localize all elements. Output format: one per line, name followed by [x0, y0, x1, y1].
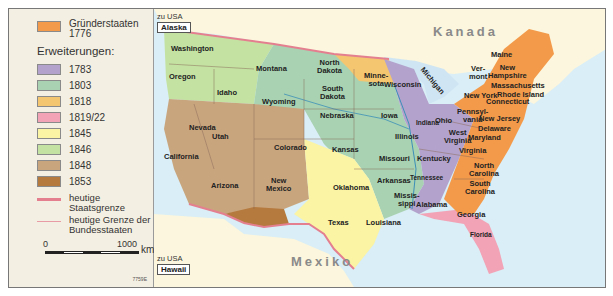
state-label: Maryland — [468, 134, 501, 142]
legend-label: Bundesstaaten — [69, 225, 150, 235]
legend-title: Erweiterungen: — [37, 45, 114, 57]
legend-label: 1783 — [69, 64, 91, 75]
state-label: Kentucky — [417, 155, 451, 163]
legend-swatch-1776 — [37, 21, 61, 32]
legend-swatch — [37, 80, 61, 91]
state-label: Arkansas — [377, 177, 411, 185]
legend-founding-states: Gründerstaaten 1776 — [37, 19, 139, 39]
state-label: Georgia — [457, 211, 485, 219]
legend-label: 1845 — [69, 128, 91, 139]
legend-label: Staatsgrenze — [69, 203, 125, 213]
state-label: Rhode Island — [497, 91, 544, 99]
legend-label: 1846 — [69, 144, 91, 155]
state-label: NewMexico — [266, 177, 291, 193]
legend-item: 1845 — [37, 128, 91, 139]
state-label: Ohio — [435, 117, 452, 125]
legend-swatch — [37, 112, 61, 123]
state-label: Alabama — [416, 201, 447, 209]
state-label: Washington — [171, 45, 214, 53]
state-label: Montana — [256, 65, 287, 73]
legend-swatch — [37, 144, 61, 155]
inset-prefix-hawaii: zu USA — [157, 254, 182, 263]
state-label: Massachusetts — [491, 82, 545, 90]
scale-bar: 0 1000 km — [37, 239, 152, 265]
state-label: Ver-mont — [469, 65, 487, 81]
legend-label: 1853 — [69, 176, 91, 187]
state-label: Utah — [212, 133, 229, 141]
legend-item: 1819/22 — [37, 112, 105, 123]
label-line: Dakota — [320, 93, 345, 101]
state-label: Missouri — [379, 155, 410, 163]
inset-hawaii-label: Hawaii — [157, 264, 190, 275]
legend-label: 1848 — [69, 160, 91, 171]
country-label-mexico: Mexiko — [291, 254, 353, 269]
state-label: Nebraska — [320, 112, 354, 120]
legend-swatch — [37, 64, 61, 75]
state-label: Pennsyl-vania — [457, 108, 488, 124]
legend-item: 1846 — [37, 144, 91, 155]
state-label: Virginia — [459, 147, 486, 155]
legend-swatch — [37, 96, 61, 107]
state-label: Arizona — [211, 182, 239, 190]
state-label: California — [164, 153, 199, 161]
state-label: Wyoming — [262, 98, 296, 106]
state-label: Colorado — [274, 144, 307, 152]
scale-end-label: 1000 — [117, 239, 137, 249]
legend-line-state-border: heutige Grenze derBundesstaaten — [37, 215, 150, 235]
scale-start-label: 0 — [43, 239, 48, 249]
line-swatch — [37, 198, 61, 201]
legend-item: 1783 — [37, 64, 91, 75]
label-line: Mexico — [266, 185, 291, 193]
state-label: SouthCarolina — [465, 180, 495, 196]
state-label: Iowa — [381, 112, 398, 120]
map-figure: Gründerstaaten 1776 Erweiterungen: 1783 … — [8, 8, 606, 288]
legend-item: 1848 — [37, 160, 91, 171]
legend-panel: Gründerstaaten 1776 Erweiterungen: 1783 … — [9, 9, 154, 287]
state-label: Wisconsin — [384, 81, 421, 89]
legend-line-national-border: heutigeStaatsgrenze — [37, 193, 125, 213]
scale-unit-label: km — [141, 244, 154, 255]
state-label: NorthCarolina — [469, 162, 499, 178]
legend-swatch — [37, 128, 61, 139]
state-label: Florida — [470, 231, 492, 239]
legend-label: 1818 — [69, 96, 91, 107]
label-line: Hampshire — [488, 72, 527, 80]
legend-item: 1853 — [37, 176, 91, 187]
label-line: Carolina — [465, 188, 495, 196]
map-graphic — [154, 9, 605, 287]
state-label: Oklahoma — [333, 184, 369, 192]
label-line: mont — [469, 73, 487, 81]
state-label: Illinois — [395, 133, 419, 141]
legend-item: 1818 — [37, 96, 91, 107]
legend-label: 1803 — [69, 80, 91, 91]
state-label: Nevada — [189, 124, 216, 132]
label-line: vania — [457, 116, 488, 124]
state-label: Kansas — [332, 146, 359, 154]
label-line: Dakota — [317, 67, 342, 75]
legend-item: 1803 — [37, 80, 91, 91]
line-swatch — [37, 221, 61, 222]
state-label: Idaho — [217, 89, 237, 97]
scale-bar-graphic — [45, 251, 139, 254]
inset-alaska-label: Alaska — [157, 22, 191, 33]
state-label: Connecticut — [486, 98, 529, 106]
state-label: Delaware — [478, 125, 511, 133]
country-label-canada: Kanada — [433, 24, 498, 39]
legend-label: 1776 — [69, 29, 139, 39]
state-label: NewHampshire — [488, 64, 527, 80]
state-label: Oregon — [169, 73, 196, 81]
label-line: Carolina — [469, 170, 499, 178]
inset-prefix-alaska: zu USA — [157, 12, 182, 21]
state-label: Tennessee — [410, 174, 443, 182]
state-label: Texas — [328, 219, 349, 227]
state-label: Louisiana — [366, 219, 401, 227]
legend-swatch — [37, 160, 61, 171]
state-label: SouthDakota — [320, 85, 345, 101]
map-area: zu USA Alaska zu USA Hawaii Kanada Mexik… — [154, 9, 605, 287]
state-label: NorthDakota — [317, 59, 342, 75]
legend-label: 1819/22 — [69, 112, 105, 123]
legend-swatch — [37, 176, 61, 187]
state-label: Maine — [491, 51, 512, 59]
map-code: 7759E — [133, 276, 147, 282]
